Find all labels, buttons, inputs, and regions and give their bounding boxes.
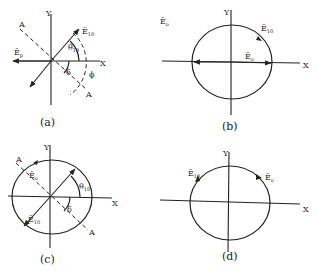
e-o-label: Ēo: [29, 171, 38, 181]
e-10-vector: [50, 169, 75, 197]
a-bottom-label: A: [88, 228, 95, 237]
x-axis: [8, 196, 112, 198]
polarization-diagram: Y X Ēp Ē10 θ10 δ ϕ A A (a) Y X Ēo Ē10 Ēo…: [0, 0, 318, 275]
e-10-vector: [51, 29, 79, 61]
a-bottom-label: A: [85, 90, 92, 99]
e-p-label: Ēp: [14, 48, 23, 59]
y-axis-label: Y: [45, 9, 52, 18]
e-10-label: Ē10: [28, 215, 40, 225]
panel-b: Y X Ēo Ē10 Ēo (b): [160, 8, 309, 133]
e-10-label: Ē10: [261, 24, 273, 34]
e-10-opposite-vector: [30, 61, 51, 87]
y-axis-label: Y: [43, 143, 50, 152]
x-axis-label: X: [303, 61, 309, 70]
caption-d: (d): [222, 250, 238, 263]
a-top-label: A: [18, 20, 25, 29]
x-axis-label: X: [100, 59, 106, 68]
panel-c: Y X Ēo Ē10 θ10 δ A A (c): [8, 143, 118, 266]
y-axis-label: Y: [223, 8, 230, 17]
a-a-line: [20, 29, 87, 90]
x-axis: [160, 200, 300, 204]
panel-d: Y X Ē10 Ēo (d): [160, 149, 309, 263]
e-10-label: Ē10: [82, 27, 94, 37]
x-axis-label: X: [112, 199, 118, 208]
phi-label: ϕ: [89, 70, 95, 79]
caption-a: (a): [40, 116, 55, 129]
delta-label: δ: [66, 68, 71, 77]
y-axis-label: Y: [222, 149, 229, 158]
a-top-label: A: [15, 155, 22, 164]
caption-b: (b): [222, 120, 238, 133]
delta-label: δ: [67, 205, 72, 214]
e-10-label: Ē10: [188, 169, 200, 179]
e-o-label: Ēo: [245, 52, 254, 62]
theta-label: θ10: [79, 182, 90, 192]
caption-c: (c): [40, 253, 55, 266]
x-axis-label: X: [303, 205, 309, 214]
panel-a: Y X Ēp Ē10 θ10 δ ϕ A A (a): [13, 9, 106, 129]
e-o-label: Ēo: [265, 173, 274, 183]
e-o-corner-label: Ēo: [160, 17, 169, 27]
